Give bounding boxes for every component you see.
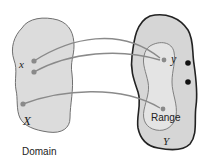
unmapped-point-2 [185,79,191,85]
domain-label: Domain [22,146,56,157]
codomain-point-y [162,58,167,63]
element-label-x: x [19,58,24,70]
domain-point-x3 [20,101,25,106]
set-label-X: X [23,113,31,129]
unmapped-point-1 [185,60,191,66]
element-label-y: y [171,52,176,67]
domain-point-x2 [31,69,36,74]
set-label-Y: Y [163,135,169,147]
range-label: Range [151,112,180,123]
domain-set-shape [12,18,74,132]
codomain-point-range [161,107,166,112]
domain-point-x1 [31,58,36,63]
mapping-diagram [0,0,208,163]
